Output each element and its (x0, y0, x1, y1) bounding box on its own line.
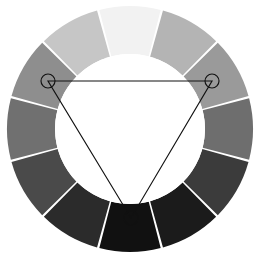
wheel-segment-10[interactable] (7, 98, 57, 159)
wheel-segment-1[interactable] (99, 6, 160, 56)
wheel-segment-7[interactable] (99, 202, 160, 252)
wheel-segment-4[interactable] (203, 98, 253, 159)
color-wheel-figure (0, 0, 260, 258)
color-wheel-svg (0, 0, 260, 258)
